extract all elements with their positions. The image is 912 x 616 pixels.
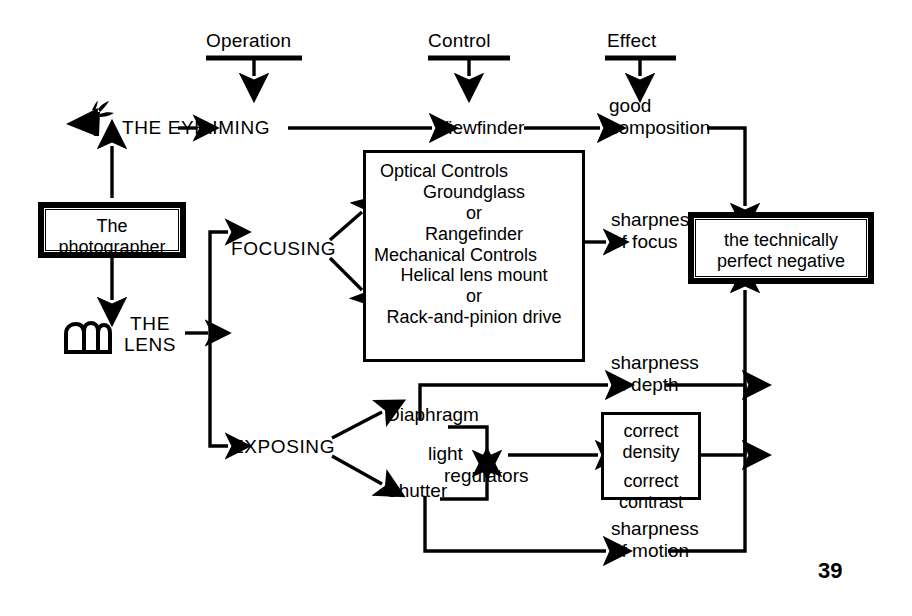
controls-box-line-7: or bbox=[366, 286, 582, 307]
operation-focusing: FOCUSING bbox=[231, 238, 336, 259]
actor-the-eye: THE EYE bbox=[122, 117, 208, 138]
photographer-box: The photographer bbox=[38, 202, 186, 258]
eye-icon bbox=[62, 100, 118, 140]
density-box: correct density correct contrast bbox=[601, 412, 701, 500]
controls-box-line-3: or bbox=[366, 203, 582, 224]
control-light-regulators-line1: light bbox=[428, 443, 463, 464]
column-header-operation: Operation bbox=[206, 30, 291, 51]
result-box-line-1: the technically bbox=[694, 230, 868, 251]
effect-good-composition-line2: composition bbox=[609, 117, 710, 138]
controls-box-line-5: Mechanical Controls bbox=[366, 245, 582, 266]
controls-box-line-4: Rangefinder bbox=[366, 224, 582, 245]
density-box-line-3: correct bbox=[604, 471, 698, 492]
result-box: the technically perfect negative bbox=[688, 212, 874, 284]
density-box-line-2: density bbox=[604, 442, 698, 463]
photographer-line-1: The bbox=[44, 216, 180, 237]
control-viewfinder: Viewfinder bbox=[436, 117, 524, 138]
controls-box: Optical Controls Groundglass or Rangefin… bbox=[363, 150, 585, 362]
effect-sharpness-of-focus-line1: sharpness bbox=[611, 209, 699, 230]
diagram-canvas: Operation Control Effect THE EYE THE LEN… bbox=[0, 0, 912, 616]
controls-box-line-6: Helical lens mount bbox=[366, 265, 582, 286]
operation-aiming: AIMING bbox=[199, 117, 270, 138]
control-diaphragm: Diaphragm bbox=[386, 404, 479, 425]
density-box-line-4: contrast bbox=[604, 492, 698, 513]
page-number: 39 bbox=[818, 558, 842, 584]
effect-sharpness-in-depth-line1: sharpness bbox=[611, 352, 699, 373]
controls-box-line-8: Rack-and-pinion drive bbox=[366, 307, 582, 328]
effect-sharpness-in-depth-line2: in depth bbox=[611, 374, 679, 395]
result-box-line-2: perfect negative bbox=[694, 251, 868, 272]
control-shutter: Shutter bbox=[386, 480, 447, 501]
photographer-line-2: photographer bbox=[44, 237, 180, 258]
lens-icon bbox=[58, 318, 114, 358]
effect-good-composition-line1: good bbox=[609, 95, 651, 116]
effect-sharpness-of-motion-line1: sharpness bbox=[611, 518, 699, 539]
operation-exposing: EXPOSING bbox=[231, 436, 335, 457]
control-light-regulators-line2: regulators bbox=[444, 465, 529, 486]
column-header-control: Control bbox=[428, 30, 491, 51]
controls-box-line-1: Optical Controls bbox=[366, 161, 582, 182]
controls-box-line-2: Groundglass bbox=[366, 182, 582, 203]
column-header-effect: Effect bbox=[607, 30, 656, 51]
effect-sharpness-of-focus-line2: of focus bbox=[611, 231, 678, 252]
effect-sharpness-of-motion-line2: of motion bbox=[611, 540, 689, 561]
actor-the-lens: THE LENS bbox=[124, 313, 176, 356]
density-box-line-1: correct bbox=[604, 421, 698, 442]
